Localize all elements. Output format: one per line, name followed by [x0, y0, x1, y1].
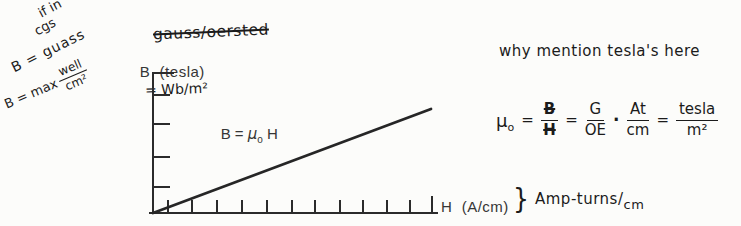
mu-subscript: o: [257, 134, 263, 145]
fraction-gauss-over-oersted: G OE: [585, 101, 606, 139]
line-label-pre: B =: [221, 125, 248, 142]
fraction-ampturns-over-cm: At cm: [627, 101, 650, 139]
frac-at: At: [627, 101, 649, 120]
curly-brace: }: [513, 183, 529, 216]
mu0-mu: μ: [496, 110, 507, 131]
frac-g: G: [587, 101, 605, 120]
equals-sign: =: [656, 111, 669, 129]
margin-note-cgs-condition: if in cgs: [36, 0, 70, 33]
fraction-tesla-over-m2: tesla m²: [676, 101, 718, 139]
line-label-post: H: [263, 125, 278, 142]
mu-symbol: μ: [248, 125, 258, 143]
amp-turns-cm: cm: [623, 197, 644, 212]
x-axis-unit-note: Amp-turns/cm: [535, 190, 644, 208]
frac-cm: cm: [627, 121, 650, 139]
equals-sign: =: [521, 111, 534, 129]
mu0-sub: o: [507, 121, 514, 134]
frac-tesla: tesla: [676, 101, 718, 120]
struck-units-note: gauss/oersted: [153, 20, 270, 43]
scanned-notes-page: if in cgs B = guass B = max well cm² gau…: [0, 0, 741, 226]
frac-h-crossed: H: [543, 121, 556, 139]
question-note: why mention tesla's here: [499, 42, 700, 60]
fraction-b-over-h: B H: [541, 101, 558, 139]
mu-equation: μo = B H = G OE · At cm = tesla m²: [496, 88, 718, 152]
amp-turns-text: Amp-turns/: [535, 190, 623, 208]
multiplication-dot: ·: [613, 110, 619, 130]
frac-b-crossed: B: [541, 101, 558, 120]
b-mu0-h-data-line: [153, 109, 431, 213]
mu0-term: μo: [496, 110, 514, 131]
graph-axes: [150, 73, 437, 213]
line-equation-label: B = μo H: [204, 108, 278, 160]
maxwell-prefix: B = max: [2, 76, 60, 112]
equals-sign: =: [565, 111, 578, 129]
bh-graph: [140, 64, 445, 219]
frac-oe: OE: [585, 121, 606, 139]
x-axis-label: H (A/cm): [441, 198, 509, 215]
frac-m2: m²: [687, 121, 708, 139]
